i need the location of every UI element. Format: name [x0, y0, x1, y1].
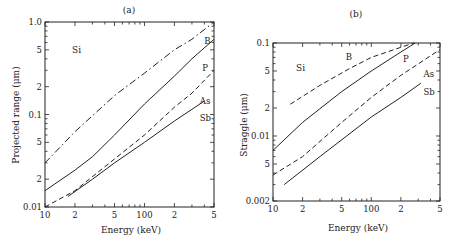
series-label-b: B: [346, 52, 352, 62]
panel-a-title: (a): [123, 5, 135, 15]
panel-a-curves: [45, 22, 214, 207]
y-tick-label: 5: [37, 137, 42, 147]
curve-b: [45, 22, 214, 163]
y-tick-label: 0.01: [251, 131, 270, 141]
panel-a-ticks: 1025100250.01250.1251.0: [23, 17, 217, 220]
series-label-p: P: [202, 63, 208, 73]
y-tick-label: 1.0: [28, 17, 42, 27]
y-tick-label: 5: [37, 45, 42, 55]
y-tick-label: 2: [265, 103, 270, 113]
y-tick-label: 0.002: [246, 196, 270, 206]
series-label-sb: Sb: [200, 113, 212, 123]
y-tick-label: 2: [37, 174, 42, 184]
series-label-as: As: [199, 96, 211, 106]
series-label-p: P: [403, 54, 409, 64]
x-tick-label: 2: [398, 204, 403, 214]
x-tick-label: 5: [112, 210, 117, 220]
x-tick-label: 100: [363, 204, 379, 214]
x-tick-label: 2: [300, 204, 305, 214]
x-tick-label: 5: [437, 204, 442, 214]
curve-sb: [284, 83, 421, 184]
series-label-as: As: [423, 69, 435, 79]
curve-p: [273, 43, 415, 150]
panel-a-plot-frame: [45, 22, 214, 207]
x-tick-label: 2: [72, 210, 77, 220]
curve-sb: [68, 101, 205, 197]
y-tick-label: 2: [37, 82, 42, 92]
x-tick-label: 2: [172, 210, 177, 220]
figure: (a) 1025100250.01250.1251.0 BPAsSb Si En…: [0, 0, 453, 242]
panel-a-series-labels: BPAsSb: [199, 36, 212, 123]
panel-a-x-axis-label: Energy (keV): [101, 225, 161, 235]
panel-b-y-axis-label: Straggle (μm): [239, 93, 249, 156]
y-tick-label: 5: [265, 66, 270, 76]
y-tick-label: 0.01: [23, 202, 42, 212]
panel-b-title: (b): [350, 9, 363, 19]
panel-a-y-axis-label: Projected range (μm): [11, 66, 21, 163]
chart-panel-a: (a) 1025100250.01250.1251.0 BPAsSb Si En…: [11, 5, 217, 235]
y-tick-label: 5: [265, 159, 270, 169]
curve-p: [45, 39, 214, 190]
y-tick-label: 0.1: [256, 38, 270, 48]
curve-as: [45, 70, 214, 207]
panel-b-x-axis-label: Energy (keV): [328, 223, 388, 233]
x-tick-label: 100: [136, 210, 152, 220]
series-label-sb: Sb: [424, 87, 436, 97]
panel-b-material-label: Si: [296, 63, 305, 73]
series-label-b: B: [204, 36, 210, 46]
y-tick-label: 0.1: [28, 110, 42, 120]
x-tick-label: 5: [339, 204, 344, 214]
panel-a-material-label: Si: [72, 45, 81, 55]
panel-b-ticks: 1025100250.00250.01250.1: [246, 38, 443, 214]
x-tick-label: 5: [211, 210, 216, 220]
chart-panel-b: (b) 1025100250.00250.01250.1 BPAsSb Si E…: [239, 9, 443, 233]
